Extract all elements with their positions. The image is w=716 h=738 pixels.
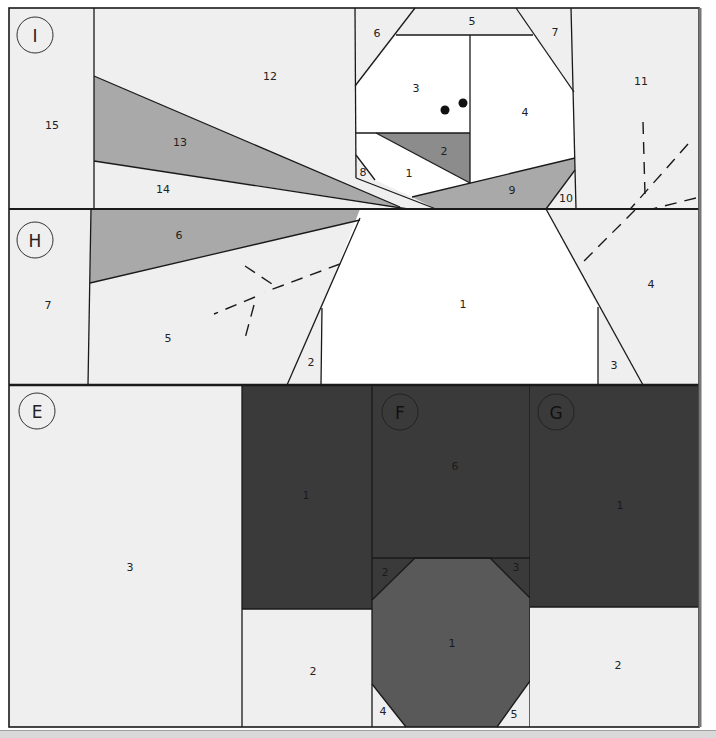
piece-e-1-label: 1 (303, 489, 310, 502)
piece-f-3-label: 3 (513, 561, 520, 574)
piece-h-7-label: 7 (45, 299, 52, 312)
piece-i-5-label: 5 (469, 15, 476, 28)
piece-i-6-label: 6 (374, 27, 381, 40)
piece-h-3-label: 3 (611, 359, 618, 372)
piece-h-7 (9, 209, 90, 385)
section-i-label: I (32, 26, 37, 46)
piece-i-7-label: 7 (552, 26, 559, 39)
section-h-label: H (29, 231, 42, 251)
piece-g-1-label: 1 (617, 499, 624, 512)
section-g-label: G (549, 403, 562, 423)
piece-h-2-label: 2 (308, 356, 315, 369)
piece-i-1-label: 1 (406, 167, 413, 180)
section-e-label: E (32, 402, 43, 422)
piece-i-9-label: 9 (509, 184, 516, 197)
piece-f-6-label: 6 (452, 460, 459, 473)
piece-i-2-label: 2 (441, 145, 448, 158)
piece-h-5-label: 5 (165, 332, 172, 345)
piece-i-5 (396, 8, 533, 35)
piece-g-2-label: 2 (615, 659, 622, 672)
section-g: G 1 2 (530, 386, 699, 727)
piece-i-15 (9, 8, 94, 209)
piece-i-8-label: 8 (360, 166, 367, 179)
piece-f-5-label: 5 (511, 708, 518, 721)
section-h: H 7 6 5 2 1 3 4 (9, 209, 699, 385)
piece-f-1-label: 1 (449, 637, 456, 650)
piece-e-2 (242, 609, 372, 727)
piece-e-2-label: 2 (310, 665, 317, 678)
piece-h-1-label: 1 (460, 298, 467, 311)
piece-h-6-label: 6 (176, 229, 183, 242)
piece-f-2-label: 2 (382, 566, 389, 579)
piece-i-3-label: 3 (413, 82, 420, 95)
piece-i-11-label: 11 (634, 75, 648, 88)
piece-i-13-label: 13 (173, 136, 187, 149)
piece-e-3 (9, 386, 242, 727)
piece-h-4-label: 4 (648, 278, 655, 291)
piece-i-14-label: 14 (156, 183, 170, 196)
section-i: I 15 12 13 14 6 5 7 3 4 2 1 8 9 10 11 (9, 8, 699, 215)
piece-i-15-label: 15 (45, 119, 59, 132)
bottom-edge (0, 730, 716, 738)
section-f: F 6 2 3 1 4 5 (372, 386, 530, 727)
piece-h-1 (321, 209, 598, 385)
piece-i-10-label: 10 (559, 192, 573, 205)
snowman-eye-left (441, 106, 450, 115)
piece-f-4-label: 4 (380, 705, 387, 718)
piece-i-4-label: 4 (522, 106, 529, 119)
piece-e-3-label: 3 (127, 561, 134, 574)
section-e: E 3 1 2 (9, 386, 372, 727)
piece-i-12-label: 12 (263, 70, 277, 83)
snowman-eye-right (459, 99, 468, 108)
section-f-label: F (395, 403, 405, 423)
piece-i-11 (571, 8, 699, 209)
